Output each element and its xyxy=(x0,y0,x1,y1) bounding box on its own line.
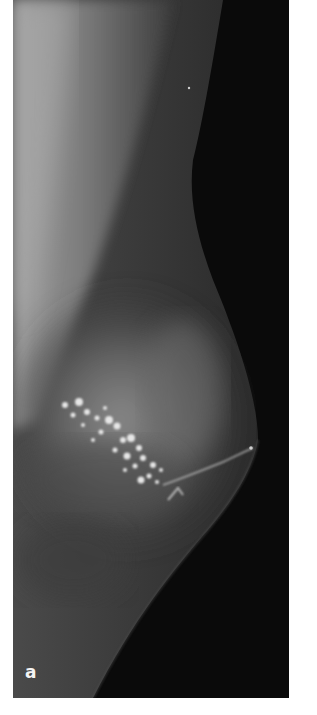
panel-label: a xyxy=(25,664,36,681)
mammogram-image: a xyxy=(13,0,289,698)
mammogram-rendering xyxy=(13,0,289,698)
